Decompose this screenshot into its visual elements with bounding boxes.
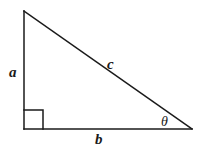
right-angle-marker-icon bbox=[24, 110, 43, 129]
right-triangle-figure: a c b θ bbox=[0, 0, 201, 156]
label-side-a: a bbox=[9, 65, 17, 80]
label-angle-theta: θ bbox=[161, 115, 168, 129]
label-side-b: b bbox=[95, 132, 103, 147]
label-side-c: c bbox=[107, 57, 114, 72]
